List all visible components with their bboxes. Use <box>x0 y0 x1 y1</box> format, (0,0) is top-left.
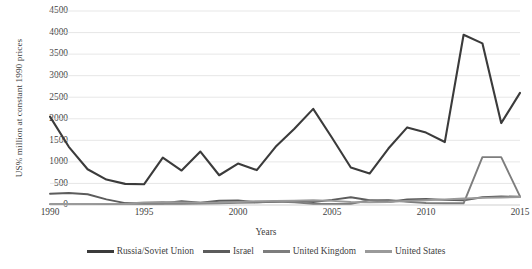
legend-item-israel[interactable]: Israel <box>203 247 254 256</box>
x-tick-label: 2005 <box>323 208 342 217</box>
x-tick-label: 2010 <box>417 208 436 217</box>
legend-label: Israel <box>233 247 254 256</box>
series-line-united-kingdom <box>50 157 520 204</box>
chart-legend: Russia/Soviet UnionIsraelUnited KingdomU… <box>0 247 532 256</box>
x-tick-label: 1990 <box>41 208 60 217</box>
x-axis-title: Years <box>0 227 532 237</box>
legend-swatch-icon <box>263 250 290 253</box>
legend-label: United Kingdom <box>293 247 356 256</box>
legend-swatch-icon <box>87 250 114 253</box>
series-lines <box>50 35 520 204</box>
legend-label: Russia/Soviet Union <box>117 247 194 256</box>
y-axis-title: US% million at constant 1990 prices <box>14 13 24 203</box>
legend-item-russia-soviet-union[interactable]: Russia/Soviet Union <box>87 247 194 256</box>
plot-area <box>50 11 520 205</box>
legend-item-united-states[interactable]: United States <box>365 247 445 256</box>
legend-label: United States <box>395 247 445 256</box>
line-chart: US% million at constant 1990 prices 4500… <box>0 0 532 269</box>
legend-item-united-kingdom[interactable]: United Kingdom <box>263 247 356 256</box>
x-tick-label: 2000 <box>229 208 248 217</box>
gridlines <box>50 11 520 205</box>
x-tick-label: 2015 <box>511 208 530 217</box>
legend-swatch-icon <box>365 250 392 253</box>
x-tick-label: 1995 <box>135 208 154 217</box>
x-axis-tick-labels: 199019952000200520102015 <box>0 208 532 224</box>
plot-svg <box>50 11 520 205</box>
legend-swatch-icon <box>203 250 230 253</box>
